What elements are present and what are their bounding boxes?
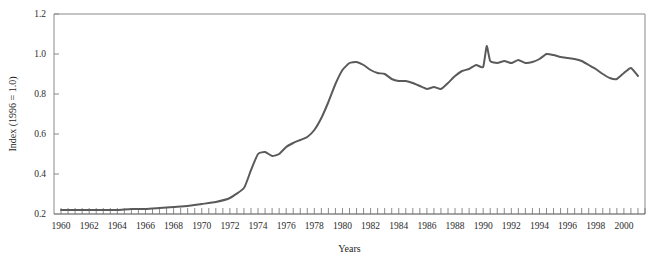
plot-frame <box>54 14 645 214</box>
x-axis-tick-label: 1988 <box>446 221 465 231</box>
x-axis-tick-label: 1972 <box>220 221 239 231</box>
x-axis-tick-label: 1960 <box>52 221 71 231</box>
y-axis-tick-label: 0.2 <box>34 209 46 219</box>
y-axis-tick-label: 1.2 <box>34 9 46 19</box>
x-axis-tick-label: 1968 <box>164 221 183 231</box>
x-axis-tick-label: 1976 <box>277 221 296 231</box>
y-axis-tick-label: 0.8 <box>34 89 46 99</box>
y-axis-title: Index (1996 = 1.0) <box>7 76 19 151</box>
figure-container: 0.20.40.60.81.01.21960196219641966196819… <box>0 0 660 272</box>
x-axis-tick-label: 1966 <box>136 221 155 231</box>
x-axis-tick-label: 1990 <box>474 221 493 231</box>
x-axis-tick-label: 1996 <box>558 221 577 231</box>
data-series-line <box>61 46 638 210</box>
x-axis-tick-label: 2000 <box>614 221 633 231</box>
x-axis-tick-label: 1998 <box>586 221 605 231</box>
x-axis-tick-label: 1964 <box>108 221 127 231</box>
x-axis-tick-label: 1978 <box>305 221 324 231</box>
y-axis-tick-label: 0.6 <box>34 129 46 139</box>
x-axis-tick-label: 1980 <box>333 221 352 231</box>
x-axis-tick-label: 1986 <box>417 221 436 231</box>
x-axis-tick-label: 1994 <box>530 221 549 231</box>
x-axis-tick-label: 1984 <box>389 221 408 231</box>
y-axis-tick-label: 0.4 <box>34 169 46 179</box>
x-axis-tick-label: 1982 <box>361 221 380 231</box>
x-axis-tick-label: 1974 <box>249 221 268 231</box>
x-axis-tick-label: 1992 <box>502 221 521 231</box>
x-axis-tick-label: 1970 <box>192 221 211 231</box>
x-axis-title: Years <box>338 243 360 254</box>
y-axis-tick-label: 1.0 <box>34 49 46 59</box>
line-chart: 0.20.40.60.81.01.21960196219641966196819… <box>0 0 660 272</box>
x-axis-tick-label: 1962 <box>80 221 99 231</box>
